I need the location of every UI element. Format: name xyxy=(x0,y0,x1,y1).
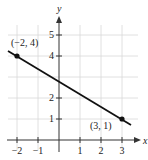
x-tick-label: 3 xyxy=(120,145,125,156)
y-axis-label: y xyxy=(56,3,62,14)
x-tick-label: 1 xyxy=(78,145,83,156)
point-label: (3, 1) xyxy=(90,120,112,132)
data-point xyxy=(14,53,19,58)
x-tick-label: −1 xyxy=(33,145,44,156)
point-label: (−2, 4) xyxy=(11,37,38,49)
y-tick-label: 1 xyxy=(49,113,54,124)
x-tick-label: −2 xyxy=(12,145,23,156)
y-tick-label: 5 xyxy=(49,29,54,40)
x-tick-label: 2 xyxy=(99,145,104,156)
data-point xyxy=(119,116,124,121)
chart: −2 −1 1 2 3 1 2 4 5 x y (−2, 4) (3, 1) xyxy=(0,0,148,160)
y-tick-label: 2 xyxy=(49,92,54,103)
x-axis-label: x xyxy=(142,135,148,146)
data-line xyxy=(8,51,131,125)
y-axis-arrow-icon xyxy=(56,16,62,23)
x-axis-arrow-icon xyxy=(134,137,141,143)
y-tick-label: 4 xyxy=(49,50,54,61)
